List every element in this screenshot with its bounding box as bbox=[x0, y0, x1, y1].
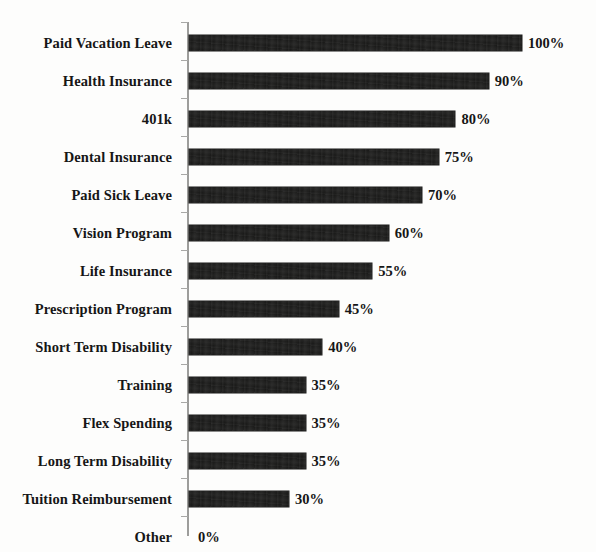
bar[interactable] bbox=[189, 73, 489, 89]
bar[interactable] bbox=[189, 187, 422, 203]
bar-and-value: 55% bbox=[189, 252, 407, 290]
bar-value-label: 55% bbox=[378, 264, 407, 279]
bar-row: Life Insurance55% bbox=[0, 252, 596, 290]
bar-row: Paid Vacation Leave100% bbox=[0, 24, 596, 62]
bar-row: Health Insurance90% bbox=[0, 62, 596, 100]
bar-value-label: 35% bbox=[312, 416, 341, 431]
bar-row: Tuition Reimbursement30% bbox=[0, 480, 596, 518]
category-label: Paid Vacation Leave bbox=[0, 24, 172, 62]
bar-and-value: 60% bbox=[189, 214, 424, 252]
bar[interactable] bbox=[189, 111, 455, 127]
bar-and-value: 45% bbox=[189, 290, 374, 328]
bar[interactable] bbox=[189, 263, 372, 279]
bar-and-value: 40% bbox=[189, 328, 357, 366]
bar-value-label: 70% bbox=[428, 188, 457, 203]
category-label: Flex Spending bbox=[0, 404, 172, 442]
bar-row: Long Term Disability35% bbox=[0, 442, 596, 480]
bar-value-label: 80% bbox=[461, 112, 490, 127]
bar[interactable] bbox=[189, 339, 322, 355]
category-label: Life Insurance bbox=[0, 252, 172, 290]
bar-value-label: 60% bbox=[395, 226, 424, 241]
bar-value-label: 0% bbox=[198, 530, 220, 545]
category-label: Short Term Disability bbox=[0, 328, 172, 366]
bar-value-label: 75% bbox=[445, 150, 474, 165]
bar-row: Flex Spending35% bbox=[0, 404, 596, 442]
bar-value-label: 90% bbox=[495, 74, 524, 89]
bar-chart-plot-area: Paid Vacation Leave100%Health Insurance9… bbox=[0, 0, 596, 552]
category-label: Health Insurance bbox=[0, 62, 172, 100]
category-label: Dental Insurance bbox=[0, 138, 172, 176]
axis-tick bbox=[181, 22, 188, 23]
bar[interactable] bbox=[189, 491, 289, 507]
category-label: Tuition Reimbursement bbox=[0, 480, 172, 518]
bar[interactable] bbox=[189, 225, 389, 241]
bar-row: Paid Sick Leave70% bbox=[0, 176, 596, 214]
bar-and-value: 90% bbox=[189, 62, 524, 100]
bar-value-label: 35% bbox=[312, 378, 341, 393]
bar-and-value: 30% bbox=[189, 480, 324, 518]
bar[interactable] bbox=[189, 149, 439, 165]
bar-row: 401k80% bbox=[0, 100, 596, 138]
category-label: Paid Sick Leave bbox=[0, 176, 172, 214]
bar-value-label: 30% bbox=[295, 492, 324, 507]
bar-and-value: 75% bbox=[189, 138, 474, 176]
bar[interactable] bbox=[189, 377, 306, 393]
bar[interactable] bbox=[189, 301, 339, 317]
category-label: Long Term Disability bbox=[0, 442, 172, 480]
bar-row: Dental Insurance75% bbox=[0, 138, 596, 176]
bar[interactable] bbox=[189, 415, 306, 431]
bar-and-value: 80% bbox=[189, 100, 490, 138]
bar-value-label: 35% bbox=[312, 454, 341, 469]
bar-and-value: 0% bbox=[189, 518, 220, 552]
bar-value-label: 45% bbox=[345, 302, 374, 317]
bar-value-label: 40% bbox=[328, 340, 357, 355]
bar-row: Short Term Disability40% bbox=[0, 328, 596, 366]
category-label: Vision Program bbox=[0, 214, 172, 252]
category-label: Training bbox=[0, 366, 172, 404]
bar[interactable] bbox=[189, 35, 522, 51]
bar-and-value: 35% bbox=[189, 404, 341, 442]
bar-row: Other0% bbox=[0, 518, 596, 552]
chart-page: Paid Vacation Leave100%Health Insurance9… bbox=[0, 0, 596, 552]
bar-and-value: 100% bbox=[189, 24, 564, 62]
bar[interactable] bbox=[189, 453, 306, 469]
bar-and-value: 35% bbox=[189, 366, 341, 404]
category-label: Other bbox=[0, 518, 172, 552]
bar-row: Training35% bbox=[0, 366, 596, 404]
bar-and-value: 35% bbox=[189, 442, 341, 480]
category-label: Prescription Program bbox=[0, 290, 172, 328]
bar-row: Vision Program60% bbox=[0, 214, 596, 252]
category-label: 401k bbox=[0, 100, 172, 138]
bar-value-label: 100% bbox=[528, 36, 564, 51]
bar-row: Prescription Program45% bbox=[0, 290, 596, 328]
bar-and-value: 70% bbox=[189, 176, 457, 214]
